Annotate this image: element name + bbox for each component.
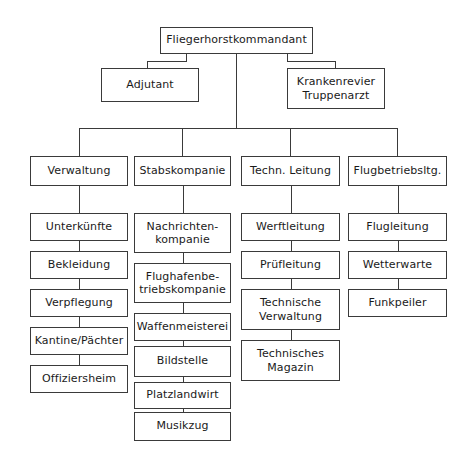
link-flugbetriebsleitung-1-2 <box>398 241 399 251</box>
node-stabskompanie-1[interactable]: Nachrichten- kompanie <box>134 213 231 253</box>
node-stabskompanie-4[interactable]: Bildstelle <box>134 346 231 377</box>
node-techn-leitung-3[interactable]: Technische Verwaltung <box>241 289 340 330</box>
node-techn-leitung-4[interactable]: Technisches Magazin <box>241 340 340 381</box>
node-flugbetriebsleitung-1[interactable]: Flugleitung <box>348 213 447 241</box>
node-stabskompanie-2[interactable]: Flughafenbe- triebskompanie <box>134 263 231 303</box>
node-verwaltung-4[interactable]: Kantine/Pächter <box>30 327 128 355</box>
node-verwaltung-1[interactable]: Unterkünfte <box>30 213 128 241</box>
drop-col3 <box>290 128 291 157</box>
node-col2-head[interactable]: Stabskompanie <box>134 156 231 186</box>
node-techn-leitung-2[interactable]: Prüfleitung <box>241 251 340 279</box>
link-flugbetriebsleitung-2-3 <box>398 279 399 289</box>
node-root[interactable]: Fliegerhorstkommandant <box>160 27 313 54</box>
node-col1-head[interactable]: Verwaltung <box>30 156 128 186</box>
link-verwaltung-1-2 <box>79 241 80 251</box>
link-verwaltung-0-1 <box>79 186 80 213</box>
link-verwaltung-3-4 <box>79 317 80 327</box>
node-verwaltung-5[interactable]: Offiziersheim <box>30 365 128 393</box>
node-flugbetriebsleitung-2[interactable]: Wetterwarte <box>348 251 447 279</box>
link-verwaltung-4-5 <box>79 355 80 365</box>
node-krankenrevier[interactable]: Krankenrevier Truppenarzt <box>287 68 385 109</box>
root-left-bar <box>147 61 187 62</box>
link-verwaltung-2-3 <box>79 279 80 289</box>
link-techn-leitung-3-4 <box>291 330 292 340</box>
link-flugbetriebsleitung-0-1 <box>398 186 399 213</box>
root-right-bar <box>287 61 336 62</box>
node-stabskompanie-6[interactable]: Musikzug <box>134 412 231 441</box>
link-stabskompanie-1-2 <box>183 253 184 263</box>
node-verwaltung-2[interactable]: Bekleidung <box>30 251 128 279</box>
node-col3-head[interactable]: Techn. Leitung <box>241 156 340 186</box>
node-col4-head[interactable]: Flugbetriebsltg. <box>348 156 447 186</box>
link-stabskompanie-0-1 <box>183 186 184 213</box>
link-techn-leitung-1-2 <box>291 241 292 251</box>
drop-col1 <box>79 128 80 157</box>
node-verwaltung-3[interactable]: Verpflegung <box>30 289 128 317</box>
drop-col4 <box>397 128 398 157</box>
link-stabskompanie-2-3 <box>183 303 184 313</box>
link-techn-leitung-0-1 <box>291 186 292 213</box>
node-stabskompanie-5[interactable]: Platzlandwirt <box>134 382 231 409</box>
node-flugbetriebsleitung-3[interactable]: Funkpeiler <box>348 289 447 317</box>
root-main-trunk <box>236 54 237 129</box>
drop-col2 <box>182 128 183 157</box>
node-techn-leitung-1[interactable]: Werftleitung <box>241 213 340 241</box>
link-techn-leitung-2-3 <box>291 279 292 289</box>
node-adjutant[interactable]: Adjutant <box>101 68 199 102</box>
distribution-bar <box>79 128 398 129</box>
node-stabskompanie-3[interactable]: Waffenmeisterei <box>134 313 231 341</box>
org-chart-canvas: FliegerhorstkommandantAdjutantKrankenrev… <box>0 0 476 461</box>
